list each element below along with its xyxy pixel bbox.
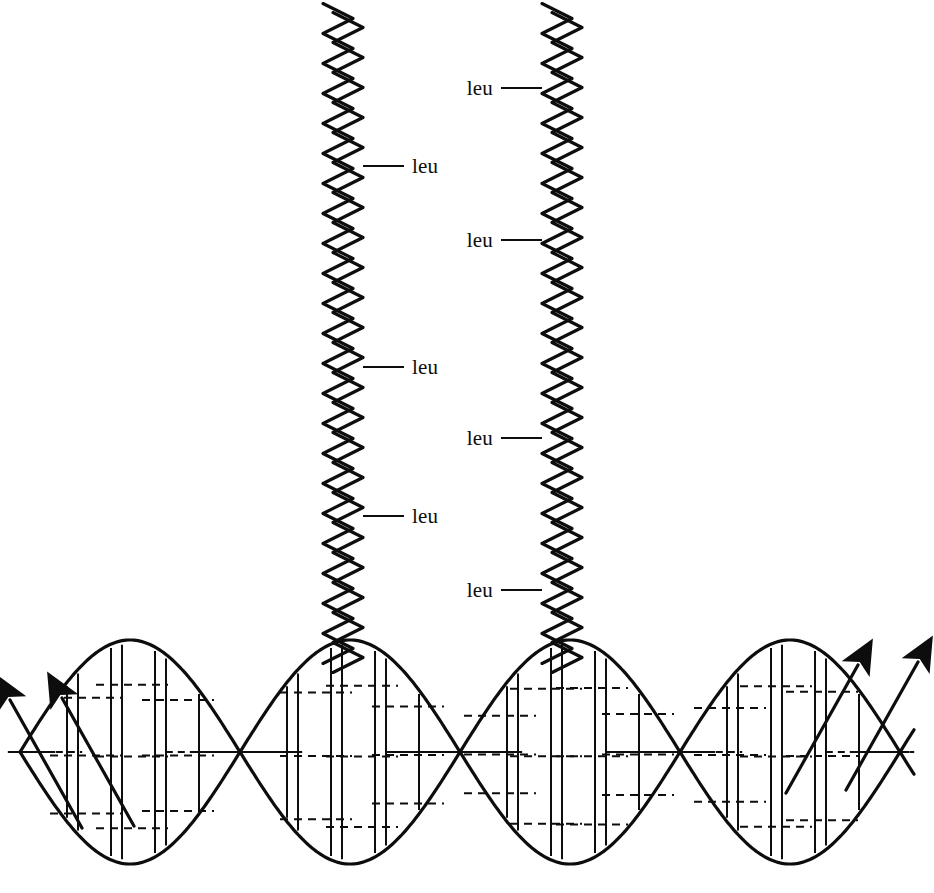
leu-label: leu: [467, 230, 493, 251]
alpha-helix-coils: [323, 4, 582, 673]
leu-label: leu: [412, 156, 438, 177]
leu-label: leu: [412, 357, 438, 378]
dna-strand-arrow-left-inner: [62, 698, 134, 826]
figure-canvas: leuleuleuleuleuleuleu: [0, 0, 934, 893]
dna-strand-arrow-right-inner: [786, 665, 858, 793]
dna-strand-arrow-left-outer: [10, 700, 82, 828]
left-alpha-helix: [323, 4, 363, 673]
leu-leader-lines: [363, 88, 542, 590]
leu-label: leu: [467, 78, 493, 99]
leu-label: leu: [467, 580, 493, 601]
leu-label: leu: [467, 428, 493, 449]
dna-strand-arrow-right-outer: [846, 662, 918, 790]
dna-double-helix: [8, 640, 918, 864]
leu-label: leu: [412, 506, 438, 527]
right-alpha-helix: [542, 4, 582, 673]
